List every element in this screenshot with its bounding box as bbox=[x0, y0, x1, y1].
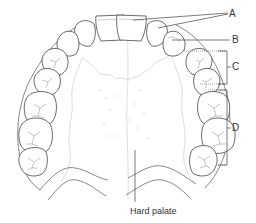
central-incisor-right bbox=[117, 15, 147, 41]
midline-suture bbox=[127, 16, 128, 200]
third-molar-left bbox=[19, 148, 48, 177]
canine-right bbox=[163, 31, 185, 56]
second-premolar-right bbox=[194, 68, 220, 95]
label-b: B bbox=[232, 35, 239, 45]
leader-a-2 bbox=[158, 14, 228, 28]
label-d: D bbox=[232, 123, 239, 133]
soft-palate-left-upper bbox=[40, 168, 108, 190]
third-molar-right bbox=[190, 146, 218, 177]
soft-palate-left-lower bbox=[48, 180, 106, 200]
label-c: C bbox=[232, 62, 239, 72]
label-a: A bbox=[229, 9, 236, 19]
label-hard-palate: Hard palate bbox=[130, 206, 177, 216]
dental-arch-diagram bbox=[0, 0, 256, 223]
palate-foveae bbox=[99, 89, 149, 139]
palate-contour-left bbox=[60, 58, 82, 182]
second-premolar-left bbox=[34, 68, 60, 95]
rugae bbox=[82, 52, 172, 80]
soft-palate-right-lower bbox=[126, 180, 190, 198]
